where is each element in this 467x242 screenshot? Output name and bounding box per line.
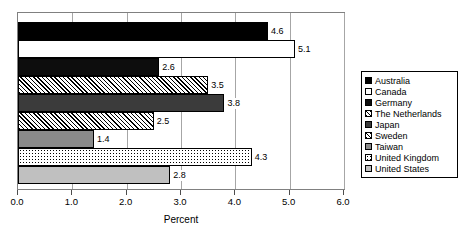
bar-value-label: 3.5	[209, 80, 225, 91]
legend-swatch-icon	[365, 99, 372, 106]
legend-swatch-icon	[365, 110, 372, 117]
bar-row: 2.6	[18, 58, 176, 76]
bar-value-label: 1.4	[95, 134, 111, 145]
legend-label: Sweden	[375, 131, 408, 141]
bar-value-label: 2.6	[160, 62, 176, 73]
bar-row: 4.3	[18, 148, 268, 166]
legend-item-canada[interactable]: Canada	[365, 86, 454, 97]
legend-swatch-icon	[365, 121, 372, 128]
legend-item-united-kingdom[interactable]: United Kingdom	[365, 152, 454, 163]
x-axis-tick	[343, 190, 344, 195]
bar-value-label: 4.6	[269, 26, 285, 37]
x-axis-tick-label: 1.0	[56, 196, 86, 208]
bar-row: 2.8	[18, 166, 187, 184]
bar-australia[interactable]	[18, 22, 268, 40]
legend-item-united-states[interactable]: United States	[365, 163, 454, 174]
x-axis-ticks	[17, 190, 345, 195]
bar-value-label: 4.3	[253, 152, 269, 163]
bar-series: 4.65.12.63.53.82.51.44.32.8	[18, 13, 344, 189]
bar-germany[interactable]	[18, 58, 159, 76]
x-axis-tick-label: 2.0	[111, 196, 141, 208]
bar-value-label: 2.8	[171, 170, 187, 181]
x-axis-tick-label: 0.0	[2, 196, 32, 208]
bar-row: 2.5	[18, 112, 170, 130]
legend-label: Canada	[375, 87, 407, 97]
legend-label: The Netherlands	[375, 109, 442, 119]
legend-swatch-icon	[365, 165, 372, 172]
legend-label: Australia	[375, 76, 410, 86]
legend-label: Japan	[375, 120, 400, 130]
legend-item-japan[interactable]: Japan	[365, 119, 454, 130]
bar-united-states[interactable]	[18, 166, 170, 184]
bar-row: 5.1	[18, 40, 312, 58]
legend-item-taiwan[interactable]: Taiwan	[365, 141, 454, 152]
x-axis-tick	[126, 190, 127, 195]
legend-item-germany[interactable]: Germany	[365, 97, 454, 108]
legend: AustraliaCanadaGermanyThe NetherlandsJap…	[361, 71, 458, 178]
bar-taiwan[interactable]	[18, 130, 94, 148]
legend-swatch-icon	[365, 154, 372, 161]
bar-row: 1.4	[18, 130, 111, 148]
x-axis-tick	[71, 190, 72, 195]
bar-row: 3.8	[18, 94, 241, 112]
legend-label: Germany	[375, 98, 412, 108]
legend-label: Taiwan	[375, 142, 403, 152]
bar-value-label: 2.5	[155, 116, 171, 127]
bar-the-netherlands[interactable]	[18, 76, 208, 94]
legend-item-sweden[interactable]: Sweden	[365, 130, 454, 141]
bar-canada[interactable]	[18, 40, 295, 58]
legend-swatch-icon	[365, 88, 372, 95]
legend-label: United States	[375, 164, 429, 174]
legend-swatch-icon	[365, 143, 372, 150]
x-axis-title: Percent	[17, 214, 345, 225]
x-axis-tick-label: 6.0	[328, 196, 358, 208]
plot-area: 4.65.12.63.53.82.51.44.32.8	[17, 12, 345, 190]
legend-swatch-icon	[365, 77, 372, 84]
bar-japan[interactable]	[18, 94, 224, 112]
legend-item-the-netherlands[interactable]: The Netherlands	[365, 108, 454, 119]
legend-swatch-icon	[365, 132, 372, 139]
bar-united-kingdom[interactable]	[18, 148, 252, 166]
x-axis-tick-labels: 0.01.02.03.04.05.06.0	[0, 196, 467, 210]
x-axis-tick	[234, 190, 235, 195]
gridline	[344, 13, 345, 189]
bar-value-label: 5.1	[296, 44, 312, 55]
x-axis-tick-label: 5.0	[274, 196, 304, 208]
bar-value-label: 3.8	[225, 98, 241, 109]
x-axis-tick	[17, 190, 18, 195]
legend-label: United Kingdom	[375, 153, 439, 163]
x-axis-tick-label: 3.0	[165, 196, 195, 208]
x-axis-tick	[180, 190, 181, 195]
bar-row: 4.6	[18, 22, 284, 40]
chart-page: 4.65.12.63.53.82.51.44.32.8 0.01.02.03.0…	[0, 0, 467, 242]
x-axis-tick	[289, 190, 290, 195]
bar-sweden[interactable]	[18, 112, 154, 130]
x-axis-tick-label: 4.0	[219, 196, 249, 208]
bar-row: 3.5	[18, 76, 225, 94]
legend-item-australia[interactable]: Australia	[365, 75, 454, 86]
